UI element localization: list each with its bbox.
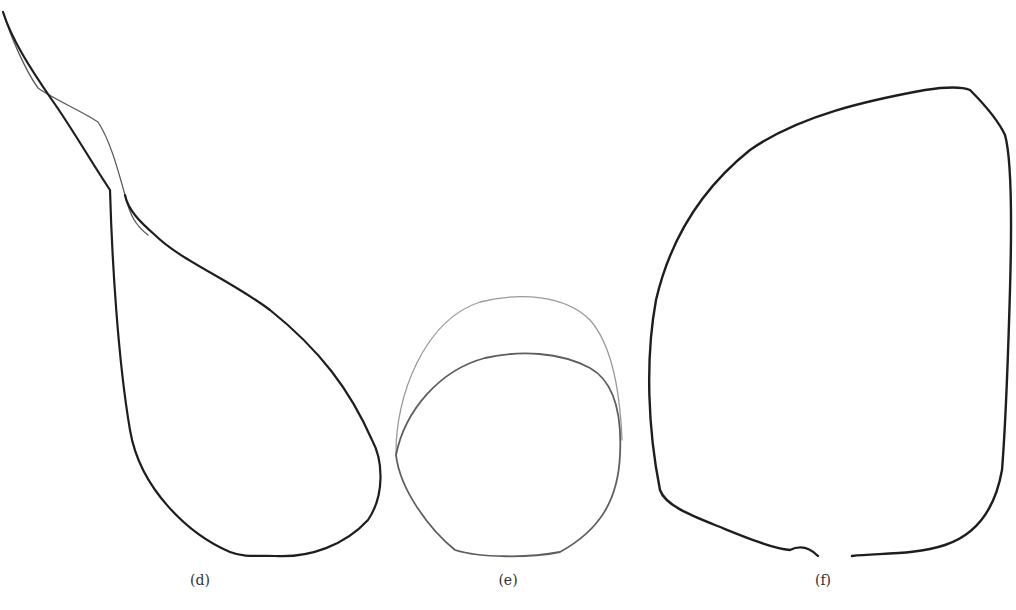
figure-caption-clipped <box>300 600 720 610</box>
panel-d-main-outline <box>3 12 381 556</box>
panel-d-label: (d) <box>190 572 210 588</box>
panel-d-label-text: (d) <box>190 572 210 588</box>
panel-f-main-outline <box>649 87 1011 556</box>
panel-e-inner-outline <box>396 353 620 556</box>
panel-e-outer-faint-outline <box>396 297 622 455</box>
panel-f-label: (f) <box>815 572 831 588</box>
figure-drawing <box>0 0 1016 610</box>
panel-d-shape <box>3 12 381 556</box>
panel-f-label-text: (f) <box>815 572 831 588</box>
panel-e-label-text: (e) <box>498 572 517 588</box>
panel-e-label: (e) <box>498 572 517 588</box>
panel-e-shape <box>396 297 622 557</box>
panel-f-shape <box>649 87 1011 556</box>
